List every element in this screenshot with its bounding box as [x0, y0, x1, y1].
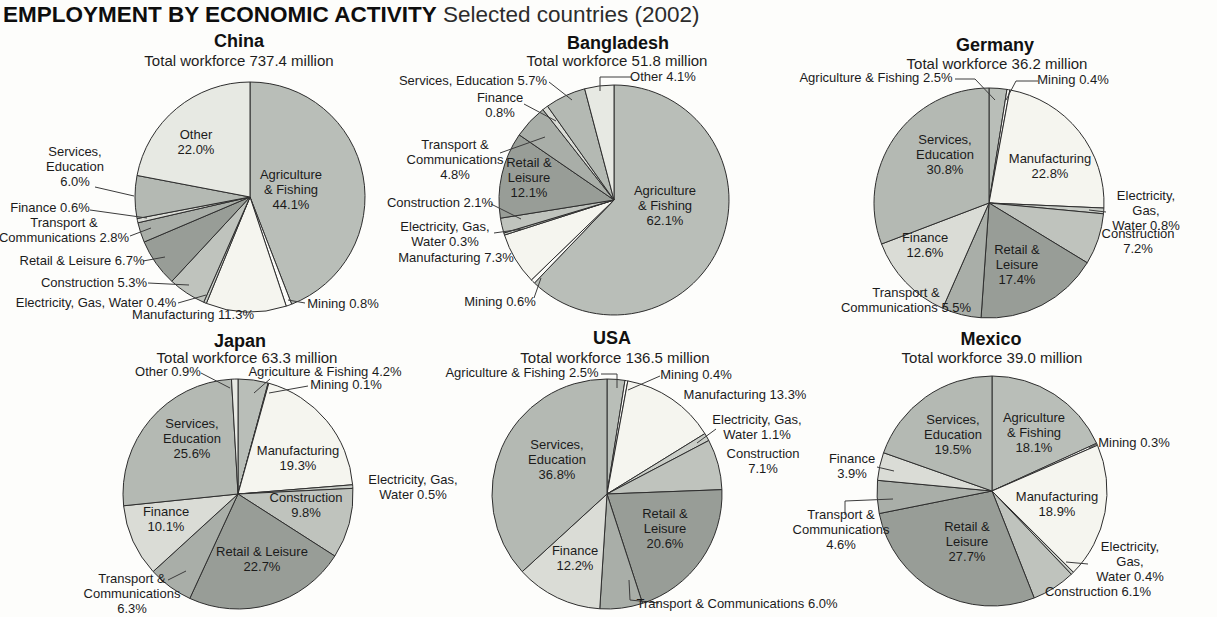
- label-usa-construction: Construction 7.1%: [727, 446, 800, 476]
- label-bangladesh-manufacturing: Manufacturing 7.3%: [398, 250, 514, 265]
- label-mexico-manufacturing: Manufacturing 18.9%: [1016, 489, 1098, 519]
- label-usa-mining: Mining 0.4%: [660, 367, 732, 382]
- label-bangladesh-construction: Construction 2.1%: [387, 195, 493, 210]
- label-japan-electricity: Electricity, Gas, Water 0.5%: [368, 472, 457, 502]
- chart-subtitle-germany: Total workforce 36.2 million: [907, 55, 1088, 72]
- label-germany-transport: Transport & Communications 5.5%: [841, 285, 971, 315]
- label-japan-construction: Construction 9.8%: [270, 490, 343, 520]
- label-china-retail: Retail & Leisure 6.7%: [19, 253, 144, 268]
- label-japan-mining: Mining 0.1%: [310, 377, 382, 392]
- label-germany-finance: Finance 12.6%: [902, 230, 948, 260]
- label-germany-mining: Mining 0.4%: [1037, 72, 1109, 87]
- label-japan-manufacturing: Manufacturing 19.3%: [257, 443, 339, 473]
- label-china-construction: Construction 5.3%: [41, 275, 147, 290]
- label-china-mining: Mining 0.8%: [307, 296, 379, 311]
- label-china-transport: Transport & Communications 2.8%: [0, 215, 129, 245]
- label-mexico-finance: Finance 3.9%: [829, 451, 875, 481]
- label-japan-services: Services, Education 25.6%: [163, 416, 221, 462]
- label-mexico-electricity: Electricity, Gas, Water 0.4%: [1087, 539, 1174, 585]
- label-china-manufacturing: Manufacturing 11.3%: [132, 307, 254, 322]
- label-bangladesh-finance: Finance 0.8%: [477, 90, 523, 120]
- label-usa-retail: Retail & Leisure 20.6%: [642, 506, 688, 552]
- label-bangladesh-retail: Retail & Leisure 12.1%: [506, 155, 552, 201]
- label-bangladesh-transport: Transport & Communications 4.8%: [407, 137, 504, 183]
- label-mexico-transport: Transport & Communications 4.6%: [793, 507, 890, 553]
- label-bangladesh-services: Services, Education 5.7%: [399, 73, 547, 88]
- chart-subtitle-japan: Total workforce 63.3 million: [157, 349, 338, 366]
- label-mexico-services: Services, Education 19.5%: [924, 412, 982, 458]
- chart-subtitle-china: Total workforce 737.4 million: [144, 52, 333, 69]
- label-germany-retail: Retail & Leisure 17.4%: [994, 242, 1040, 288]
- label-usa-electricity: Electricity, Gas, Water 1.1%: [712, 412, 801, 442]
- chart-title-china: China: [214, 31, 264, 52]
- chart-subtitle-mexico: Total workforce 39.0 million: [902, 349, 1083, 366]
- label-japan-retail: Retail & Leisure 22.7%: [216, 544, 308, 574]
- label-germany-services: Services, Education 30.8%: [916, 132, 974, 178]
- pie-china: [132, 79, 368, 315]
- label-mexico-construction: Construction 6.1%: [1045, 584, 1151, 599]
- label-bangladesh-agriculture: Agriculture & Fishing 62.1%: [634, 183, 696, 229]
- label-bangladesh-other: Other 4.1%: [630, 69, 696, 84]
- label-germany-manufacturing: Manufacturing 22.8%: [1009, 151, 1091, 181]
- chart-title-usa: USA: [593, 328, 631, 349]
- slice-germany-manufacturing: [989, 90, 1104, 208]
- page-title-subtext: Selected countries (2002): [437, 2, 700, 27]
- label-germany-agriculture: Agriculture & Fishing 2.5%: [799, 70, 952, 85]
- label-usa-finance: Finance 12.2%: [552, 543, 598, 573]
- infographic-canvas: EMPLOYMENT BY ECONOMIC ACTIVITY Selected…: [0, 0, 1217, 617]
- label-japan-finance: Finance 10.1%: [143, 504, 189, 534]
- label-usa-transport: Transport & Communications 6.0%: [636, 596, 837, 611]
- chart-title-bangladesh: Bangladesh: [567, 33, 669, 54]
- label-china-agriculture: Agriculture & Fishing 44.1%: [260, 167, 322, 213]
- chart-subtitle-usa: Total workforce 136.5 million: [520, 349, 709, 366]
- label-usa-services: Services, Education 36.8%: [528, 437, 586, 483]
- label-usa-agriculture: Agriculture & Fishing 2.5%: [445, 365, 598, 380]
- label-china-services: Services, Education 6.0%: [46, 144, 104, 190]
- label-japan-other: Other 0.9%: [135, 364, 201, 379]
- label-mexico-agriculture: Agriculture & Fishing 18.1%: [1003, 410, 1065, 456]
- label-germany-construction: Construction 7.2%: [1102, 226, 1175, 256]
- pie-usa: [489, 376, 725, 612]
- label-bangladesh-mining: Mining 0.6%: [464, 294, 536, 309]
- label-mexico-mining: Mining 0.3%: [1098, 435, 1170, 450]
- page-title: EMPLOYMENT BY ECONOMIC ACTIVITY Selected…: [3, 2, 699, 28]
- label-usa-manufacturing: Manufacturing 13.3%: [684, 387, 807, 402]
- label-japan-transport: Transport & Communications 6.3%: [84, 571, 181, 617]
- label-china-other: Other 22.0%: [178, 127, 215, 157]
- label-china-finance: Finance 0.6%: [10, 200, 90, 215]
- chart-title-mexico: Mexico: [960, 329, 1021, 350]
- label-bangladesh-electricity: Electricity, Gas, Water 0.3%: [400, 219, 489, 249]
- page-title-bold: EMPLOYMENT BY ECONOMIC ACTIVITY: [3, 2, 437, 27]
- chart-subtitle-bangladesh: Total workforce 51.8 million: [527, 52, 708, 69]
- label-mexico-retail: Retail & Leisure 27.7%: [944, 519, 990, 565]
- chart-title-germany: Germany: [956, 35, 1034, 56]
